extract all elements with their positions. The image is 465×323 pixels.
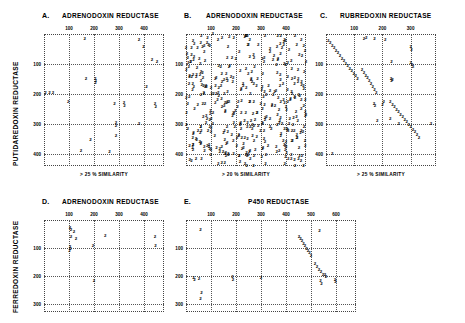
row2-y-axis-label: FERREDOXIN REDUCTASE — [12, 221, 19, 313]
data-point: 2 — [274, 103, 276, 107]
panel-c-ytick: 300 — [310, 122, 323, 127]
panel-a-gridline-h — [44, 124, 164, 125]
data-point: 2 — [246, 137, 248, 141]
data-point: 2 — [240, 127, 242, 131]
data-point: 2 — [191, 82, 193, 86]
data-point: 2 — [303, 125, 305, 129]
data-point: 2 — [302, 83, 304, 87]
panel-c-ytick: 400 — [310, 152, 323, 157]
data-point: 2 — [211, 32, 213, 36]
data-point: 2 — [263, 89, 265, 93]
data-point: 2 — [302, 163, 304, 167]
data-point: 2 — [384, 38, 386, 42]
data-point: 2 — [94, 80, 96, 84]
data-point: 2 — [273, 89, 275, 93]
data-point: 2 — [304, 98, 306, 102]
data-point: 2 — [294, 96, 296, 100]
data-point: 2 — [232, 152, 234, 156]
panel-d-xtick: 100 — [65, 212, 73, 217]
data-point: 2 — [244, 111, 246, 115]
data-point: 2 — [334, 280, 336, 284]
data-point: 2 — [206, 36, 208, 40]
data-point: 2 — [292, 122, 294, 126]
panel-a-ytick: 400 — [28, 152, 41, 157]
data-point: 2 — [115, 123, 117, 127]
panel-b-xtick: 100 — [207, 26, 215, 31]
panel-b-xtick: 400 — [282, 26, 290, 31]
panel-c-letter: C. — [320, 12, 327, 19]
data-point: 2 — [259, 129, 261, 133]
data-point: 2 — [210, 116, 212, 120]
data-point: 2 — [294, 34, 296, 38]
data-point: 2 — [251, 126, 253, 130]
data-point: 2 — [356, 77, 358, 81]
data-point: 2 — [151, 58, 153, 62]
data-point: 2 — [209, 44, 211, 48]
data-point: 2 — [155, 104, 157, 108]
data-point: 2 — [188, 95, 190, 99]
panel-d-ytick: 100 — [28, 245, 41, 250]
data-point: 2 — [145, 85, 147, 89]
data-point: 2 — [241, 135, 243, 139]
data-point: 2 — [277, 57, 279, 61]
data-point: 2 — [199, 297, 201, 301]
data-point: 2 — [282, 82, 284, 86]
panel-e-xtick: 600 — [332, 212, 340, 217]
panel-e-ytick: 100 — [170, 245, 183, 250]
data-point: 2 — [226, 101, 228, 105]
data-point: 2 — [186, 56, 188, 60]
data-point: 2 — [263, 60, 265, 64]
data-point: 2 — [256, 111, 258, 115]
panel-c-xtick: 200 — [379, 26, 387, 31]
data-point: 2 — [206, 117, 208, 121]
data-point: 2 — [200, 82, 202, 86]
panel-d-title: ADRENODOXIN REDUCTASE — [62, 198, 159, 205]
data-point: 2 — [260, 276, 262, 280]
panel-e-xtick: 400 — [282, 212, 290, 217]
data-point: 2 — [289, 97, 291, 101]
data-point: 2 — [264, 140, 266, 144]
panel-e-xtick: 100 — [207, 212, 215, 217]
data-point: 2 — [297, 119, 299, 123]
panel-d-xtick: 400 — [140, 212, 148, 217]
data-point: 2 — [115, 134, 117, 138]
data-point: 2 — [391, 77, 393, 81]
data-point: 2 — [191, 88, 193, 92]
data-point: 2 — [305, 60, 307, 64]
data-point: 2 — [410, 47, 412, 51]
data-point: 2 — [263, 55, 265, 59]
panel-a-ytick: 200 — [28, 92, 41, 97]
data-point: 2 — [188, 64, 190, 68]
panel-d-xtick: 200 — [90, 212, 98, 217]
data-point: 2 — [252, 112, 254, 116]
data-point: 2 — [244, 162, 246, 166]
panel-c-xtick: 100 — [350, 26, 358, 31]
data-point: 2 — [203, 149, 205, 153]
data-point: 2 — [300, 98, 302, 102]
data-point: 2 — [221, 79, 223, 83]
data-point: 2 — [231, 80, 233, 84]
data-point: 2 — [223, 92, 225, 96]
data-point: 2 — [272, 58, 274, 62]
data-point: 2 — [195, 157, 197, 161]
data-point: 2 — [195, 75, 197, 79]
data-point: 2 — [193, 277, 195, 281]
data-point: 2 — [293, 157, 295, 161]
data-point: 2 — [138, 122, 140, 126]
panel-c-ytick: 200 — [310, 92, 323, 97]
panel-c-gridline-v — [354, 34, 355, 166]
data-point: 2 — [249, 100, 251, 104]
panel-c-gridline-h — [326, 154, 436, 155]
data-point: 2 — [138, 38, 140, 42]
data-point: 2 — [251, 133, 253, 137]
data-point: 2 — [210, 126, 212, 130]
data-point: 2 — [240, 98, 242, 102]
data-point: 2 — [195, 137, 197, 141]
data-point: 2 — [185, 111, 187, 115]
data-point: 2 — [188, 74, 190, 78]
panel-d-ytick: 200 — [28, 273, 41, 278]
data-point: 2 — [200, 34, 202, 38]
data-point: 2 — [285, 151, 287, 155]
data-point: 2 — [245, 152, 247, 156]
data-point: 2 — [285, 108, 287, 112]
